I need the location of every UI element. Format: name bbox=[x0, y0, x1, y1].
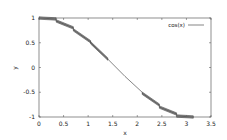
x-tick-label: 3 bbox=[185, 120, 189, 127]
curve-segment bbox=[142, 93, 159, 105]
y-tick-labels: -1-0.500.51 bbox=[23, 14, 35, 120]
x-tick-label: 3.5 bbox=[206, 120, 216, 127]
axis-ticks bbox=[39, 18, 211, 117]
series-cos-x bbox=[39, 17, 193, 118]
y-tick-label: 0.5 bbox=[25, 39, 35, 46]
curve-segment bbox=[73, 30, 90, 42]
x-tick-labels: 00.511.522.533.5 bbox=[37, 120, 216, 127]
x-tick-label: 0 bbox=[37, 120, 41, 127]
curve-segment bbox=[159, 107, 176, 114]
y-tick-label: -1 bbox=[29, 113, 35, 120]
curve-segment bbox=[56, 21, 73, 28]
x-tick-label: 0.5 bbox=[59, 120, 69, 127]
x-tick-label: 2 bbox=[135, 120, 139, 127]
y-axis-label: y bbox=[11, 66, 19, 70]
x-tick-label: 1 bbox=[86, 120, 90, 127]
curve-segment bbox=[91, 43, 108, 59]
x-tick-label: 2.5 bbox=[157, 120, 167, 127]
x-axis-label: x bbox=[123, 129, 127, 136]
x-tick-label: 1.5 bbox=[108, 120, 118, 127]
curve-segment bbox=[108, 59, 125, 76]
y-tick-label: -0.5 bbox=[23, 88, 35, 95]
chart-canvas: 00.511.522.533.5 -1-0.500.51 x y cos(x) bbox=[0, 0, 227, 140]
plot-frame bbox=[39, 18, 211, 117]
legend: cos(x) bbox=[168, 22, 204, 28]
curve-segment bbox=[125, 76, 142, 92]
legend-label: cos(x) bbox=[168, 22, 185, 28]
y-tick-label: 0 bbox=[31, 64, 35, 71]
y-tick-label: 1 bbox=[31, 14, 35, 21]
